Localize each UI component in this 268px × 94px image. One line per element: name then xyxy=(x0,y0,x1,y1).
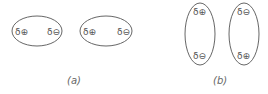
panel-b: δ⊕ δ⊖ δ⊖ δ⊕ (b) xyxy=(185,3,259,86)
molecule-a2-left-charge: δ⊕ xyxy=(83,27,96,37)
molecule-a1-left-charge: δ⊕ xyxy=(15,27,28,37)
molecule-b1-top-charge: δ⊕ xyxy=(193,7,206,17)
molecule-a1-right-charge: δ⊖ xyxy=(47,27,60,37)
molecule-b2-bottom-charge: δ⊕ xyxy=(237,51,250,61)
dipole-diagram: δ⊕ δ⊖ δ⊕ δ⊖ (a) δ⊕ δ⊖ δ⊖ δ⊕ (b) xyxy=(0,0,268,94)
molecule-b1-bottom-charge: δ⊖ xyxy=(193,51,206,61)
molecule-a2-right-charge: δ⊖ xyxy=(117,27,130,37)
panel-a-caption: (a) xyxy=(67,75,81,86)
molecule-b2-top-charge: δ⊖ xyxy=(237,7,250,17)
panel-b-caption: (b) xyxy=(213,75,227,86)
panel-a: δ⊕ δ⊖ δ⊕ δ⊖ (a) xyxy=(12,16,132,86)
